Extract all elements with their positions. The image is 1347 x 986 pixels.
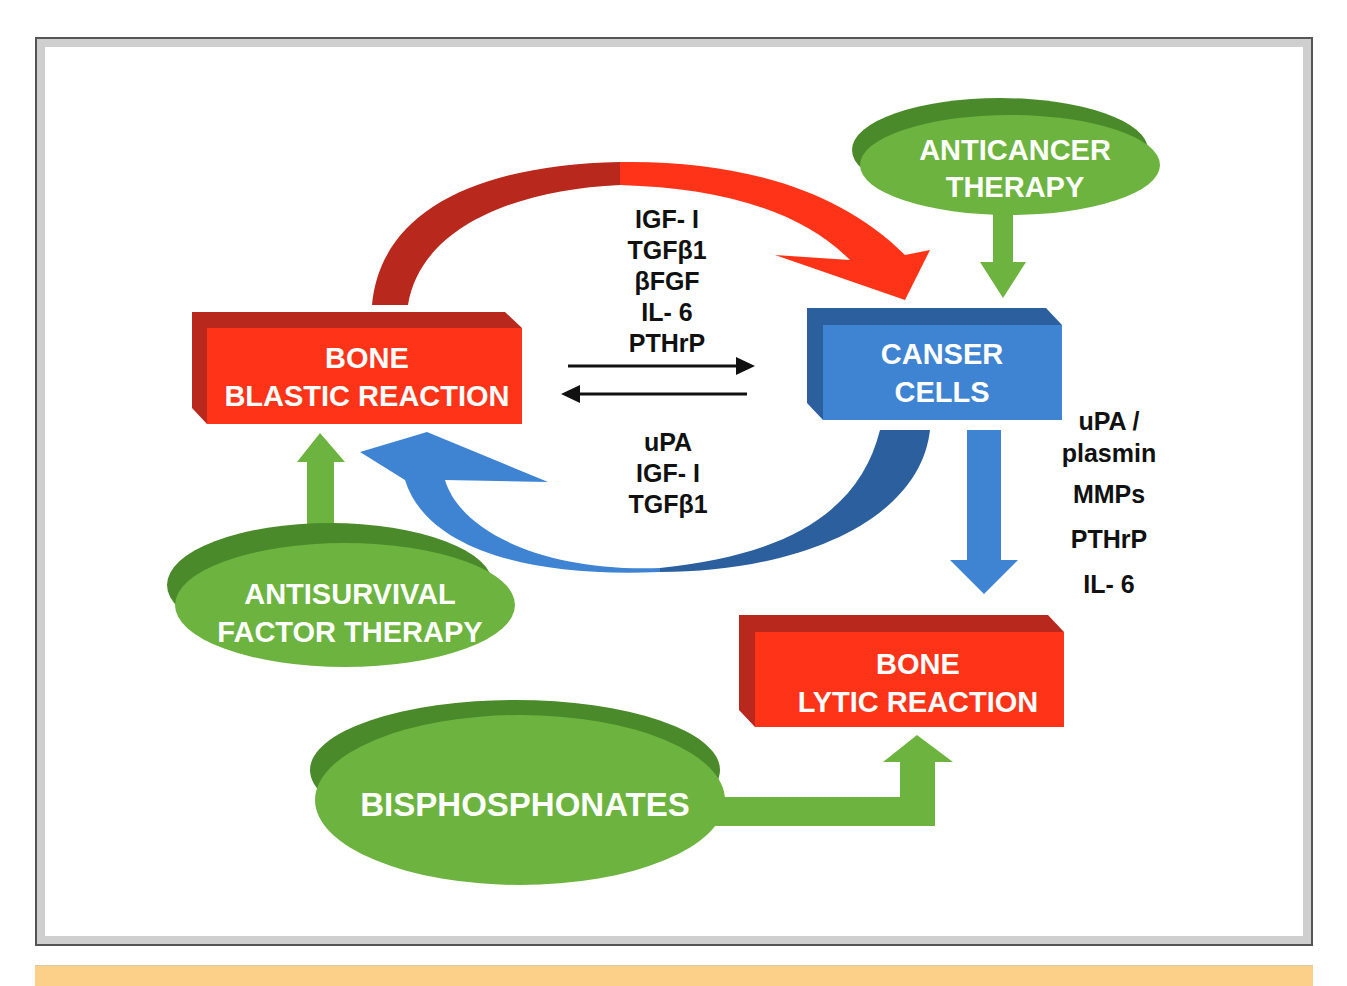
node-label: ANTISURVIVAL (244, 578, 456, 610)
node-cancer-cells[interactable]: CANSER CELLS (807, 308, 1062, 420)
node-label: BONE (876, 648, 960, 680)
curved-arrow-red-body-dark (372, 162, 620, 305)
node-label: BLASTIC REACTION (224, 380, 509, 412)
arrow-cancer-to-lytic (950, 430, 1018, 594)
node-bone-lytic-reaction[interactable]: BONE LYTIC REACTION (739, 615, 1064, 727)
arrow-left-head (561, 385, 580, 403)
factor-label: PTHrP (1071, 525, 1147, 553)
node-label: BONE (325, 342, 409, 374)
factor-label: βFGF (634, 267, 699, 295)
node-label: ANTICANCER (919, 134, 1111, 166)
arrow-right-head (736, 357, 755, 375)
arrow-bisphosphonates-to-lytic (700, 735, 953, 826)
node-bone-blastic-reaction[interactable]: BONE BLASTIC REACTION (192, 312, 522, 424)
factor-label: IGF- I (636, 459, 700, 487)
factor-label: IL- 6 (1083, 570, 1134, 598)
exchange-arrows (561, 357, 755, 403)
factor-label: TGFβ1 (628, 490, 707, 518)
arrow-anticancer-to-cancer (980, 210, 1026, 298)
factor-label: TGFβ1 (627, 236, 706, 264)
node-label: FACTOR THERAPY (217, 616, 482, 648)
factor-label: plasmin (1062, 439, 1156, 467)
factor-label: uPA / (1078, 407, 1139, 435)
node-label: THERAPY (946, 171, 1085, 203)
factor-label: PTHrP (629, 329, 705, 357)
factor-label: IL- 6 (641, 298, 692, 326)
node-bisphosphonates[interactable]: BISPHOSPHONATES (310, 700, 953, 885)
factors-bone-to-cancer: IGF- I TGFβ1 βFGF IL- 6 PTHrP (627, 205, 706, 357)
node-label: LYTIC REACTION (798, 686, 1039, 718)
factor-label: IGF- I (635, 205, 699, 233)
factors-cancer-to-lytic: uPA / plasmin MMPs PTHrP IL- 6 (1062, 407, 1156, 598)
factors-cancer-to-bone: uPA IGF- I TGFβ1 (628, 428, 707, 518)
node-label: CELLS (894, 376, 989, 408)
factor-label: uPA (644, 428, 692, 456)
arrow-antisurvival-to-bone (297, 433, 345, 526)
node-label: BISPHOSPHONATES (360, 786, 689, 823)
node-label: CANSER (881, 338, 1004, 370)
factor-label: MMPs (1073, 480, 1145, 508)
